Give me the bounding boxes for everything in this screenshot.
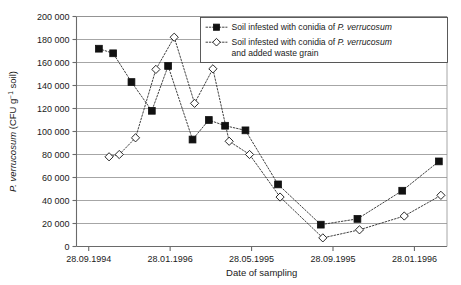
x-tickmarks-group [89,247,415,252]
x-axis-title-text: Date of sampling [226,267,297,278]
data-point-square [110,50,117,57]
data-point-diamond [170,33,178,41]
x-tick-label: 28.09.1994 [66,254,111,264]
data-point-square [435,158,442,165]
chart-figure: 020 00040 00060 00080 000100 000120 0001… [0,0,461,285]
data-point-square [95,45,102,52]
y-tickmarks-group [73,17,77,247]
data-point-square [128,79,135,86]
y-tick-label: 180 000 [37,35,70,45]
data-point-square [148,107,155,114]
y-tick-label: 40 000 [42,196,70,206]
series-line-2 [109,37,441,238]
x-tick-label: 28.05.1995 [229,254,274,264]
data-point-square [205,117,212,124]
data-point-square [354,216,361,223]
data-point-square [189,136,196,143]
data-point-diamond [400,212,408,220]
data-point-square [275,181,282,188]
legend-marker-square [213,24,219,30]
data-point-diamond [437,191,445,199]
data-point-diamond [245,150,253,158]
y-axis-title-units-open: (CFU g [7,99,18,132]
y-tick-label: 140 000 [37,81,70,91]
y-tick-label: 160 000 [37,58,70,68]
x-tick-label: 28.09.1995 [310,254,355,264]
series-markers-group [95,33,445,242]
data-point-diamond [152,65,160,73]
y-axis-title-units-close: soil) [7,71,18,91]
x-tick-label: 28.01.1996 [392,254,437,264]
legend-label-1: Soil infested with conidia of P. verruco… [232,22,392,32]
data-point-square [165,63,172,70]
x-axis-title: Date of sampling [226,267,297,278]
series-lines-group [99,37,441,238]
legend-label-2-line2: and added waste grain [232,48,319,58]
legend-label-species: P. verrucosum [338,22,392,32]
data-point-square [317,221,324,228]
x-tick-labels-group: 28.09.199428.01.199628.05.199528.09.1995… [66,254,437,264]
series-line-1 [99,49,439,225]
data-point-square [399,187,406,194]
x-tick-label: 28.01.1996 [148,254,193,264]
data-point-diamond [209,65,217,73]
y-tick-label: 20 000 [42,219,70,229]
legend-label-plain: Soil infested with conidia of [232,37,338,47]
y-axis-title-species: P. verrucosum [7,132,18,192]
data-point-diamond [190,99,198,107]
y-tick-label: 60 000 [42,173,70,183]
legend: Soil infested with conidia of P. verruco… [201,18,448,63]
data-point-diamond [105,153,113,161]
y-tick-label: 100 000 [37,127,70,137]
data-point-diamond [355,226,363,234]
y-tick-label: 0 [64,242,69,252]
data-point-diamond [225,137,233,145]
data-point-square [242,127,249,134]
y-tick-label: 200 000 [37,12,70,22]
y-tick-label: 80 000 [42,150,70,160]
line-chart: 020 00040 00060 00080 000100 000120 0001… [0,0,461,285]
y-tick-labels-group: 020 00040 00060 00080 000100 000120 0001… [37,12,70,252]
data-point-square [222,122,229,129]
legend-label-species: P. verrucosum [338,37,392,47]
y-axis-title: P. verrucosum (CFU g−1 soil) [7,71,19,192]
legend-label-plain: Soil infested with conidia of [232,22,338,32]
y-axis-title-text: P. verrucosum (CFU g−1 soil) [7,71,19,192]
legend-label-2: Soil infested with conidia of P. verruco… [232,37,392,47]
data-point-diamond [276,193,284,201]
y-tick-label: 120 000 [37,104,70,114]
